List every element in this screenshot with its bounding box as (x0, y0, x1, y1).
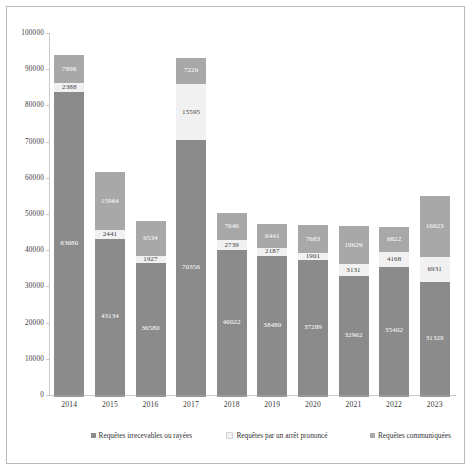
x-tick-label: 2014 (46, 400, 92, 409)
bar-value-label: 2441 (103, 231, 117, 238)
bar-value-label: 6441 (265, 233, 279, 240)
bar-segment[interactable]: 83680 (54, 92, 84, 395)
x-tick-label: 2019 (249, 400, 295, 409)
y-tick-label: 40000 (25, 246, 44, 254)
bar-segment[interactable]: 2187 (257, 248, 287, 256)
bar-segment[interactable]: 38480 (257, 256, 287, 395)
x-tick-label: 2017 (168, 400, 214, 409)
bar-value-label: 70356 (182, 264, 200, 271)
x-tick-label: 2015 (87, 400, 133, 409)
y-tick-label: 30000 (25, 282, 44, 290)
y-tick-label: 50000 (25, 210, 44, 218)
bar-segment[interactable]: 43134 (95, 239, 125, 395)
bar-segment[interactable]: 9534 (136, 221, 166, 256)
bar-segment[interactable]: 2739 (217, 240, 247, 250)
bar-segment[interactable]: 1901 (298, 253, 328, 260)
bar-segment[interactable]: 7683 (298, 225, 328, 253)
y-tick-label: 0 (40, 391, 44, 399)
chart-frame: 1000009000080000700006000050000400003000… (6, 6, 465, 464)
x-tick-mark (54, 395, 84, 397)
bar-stack[interactable]: 9534192736580 (136, 221, 166, 395)
x-tick-mark (339, 395, 369, 397)
bar-segment[interactable]: 6931 (420, 257, 450, 282)
bar-value-label: 15595 (182, 109, 200, 116)
x-tick-mark (257, 395, 287, 397)
bar-value-label: 4168 (387, 256, 401, 263)
bar-segment[interactable]: 7226 (176, 58, 206, 84)
legend-label: Requêtes communiquées (378, 431, 451, 440)
bar-segment[interactable]: 15595 (176, 84, 206, 140)
bar-segment[interactable]: 1927 (136, 256, 166, 263)
x-tick-mark (379, 395, 409, 397)
bar-segment[interactable]: 7646 (217, 213, 247, 241)
y-tick-mark (46, 395, 49, 396)
bar-stack[interactable]: 7896238883680 (54, 55, 84, 395)
bar-segment[interactable]: 35402 (379, 267, 409, 395)
bar-value-label: 15964 (101, 198, 119, 205)
y-tick-label: 90000 (25, 65, 44, 73)
bar-value-label: 43134 (101, 313, 119, 320)
bar-value-label: 1901 (306, 253, 320, 260)
x-tick-label: 2018 (209, 400, 255, 409)
bar-segment[interactable]: 3131 (339, 264, 369, 275)
bar-value-label: 38480 (263, 322, 281, 329)
bar-stack[interactable]: 6822416835402 (379, 227, 409, 395)
bar-value-label: 31329 (426, 335, 444, 342)
bar-segment[interactable]: 70356 (176, 140, 206, 395)
bar-segment[interactable]: 7896 (54, 55, 84, 84)
y-tick-label: 100000 (21, 29, 44, 37)
bar-value-label: 83680 (60, 240, 78, 247)
legend-swatch-icon (226, 432, 233, 439)
bar-segment[interactable]: 2388 (54, 83, 84, 92)
y-tick-label: 20000 (25, 319, 44, 327)
bar-segment[interactable]: 10629 (339, 226, 369, 264)
bar-value-label: 10629 (345, 242, 363, 249)
y-tick-label: 80000 (25, 101, 44, 109)
bar-stack[interactable]: 6441218738480 (257, 224, 287, 395)
bar-segment[interactable]: 6441 (257, 224, 287, 247)
x-tick-label: 2020 (290, 400, 336, 409)
plot-area: 1000009000080000700006000050000400003000… (49, 33, 455, 395)
bar-segment[interactable]: 32962 (339, 276, 369, 395)
bar-segment[interactable]: 37289 (298, 260, 328, 395)
bar-segment[interactable]: 31329 (420, 282, 450, 395)
bar-segment[interactable]: 40022 (217, 250, 247, 395)
chart-legend: Requêtes irrecevables ou rayéesRequêtes … (7, 431, 466, 440)
legend-item[interactable]: Requêtes communiquées (352, 431, 466, 440)
bar-segment[interactable]: 6822 (379, 227, 409, 252)
x-tick-mark (95, 395, 125, 397)
bar-value-label: 1927 (143, 256, 157, 263)
bar-stack[interactable]: 7683190137289 (298, 225, 328, 395)
legend-label: Requêtes irrecevables ou rayées (99, 431, 192, 440)
bar-value-label: 7646 (224, 223, 238, 230)
bar-segment[interactable]: 4168 (379, 252, 409, 267)
x-tick-label: 2023 (412, 400, 458, 409)
bar-series-group: 7896238883680159642441431349534192736580… (49, 33, 455, 395)
y-tick-label: 60000 (25, 174, 44, 182)
y-tick-label: 70000 (25, 138, 44, 146)
x-tick-label: 2021 (331, 400, 377, 409)
bar-segment[interactable]: 36580 (136, 263, 166, 395)
bar-value-label: 6822 (387, 236, 401, 243)
bar-segment[interactable]: 16623 (420, 196, 450, 256)
bar-value-label: 6931 (427, 266, 441, 273)
legend-item[interactable]: Requêtes irrecevables ou rayées (7, 431, 202, 440)
x-tick-label: 2022 (371, 400, 417, 409)
x-tick-mark (298, 395, 328, 397)
bar-stack[interactable]: 16623693131329 (420, 196, 450, 395)
bar-stack[interactable]: 15964244143134 (95, 172, 125, 395)
legend-item[interactable]: Requêtes par un arrêt prononcé (202, 431, 352, 440)
bar-value-label: 16623 (426, 223, 444, 230)
bar-value-label: 36580 (142, 325, 160, 332)
x-tick-label: 2016 (128, 400, 174, 409)
bar-stack[interactable]: 10629313132962 (339, 226, 369, 395)
bar-value-label: 7896 (62, 66, 76, 73)
bar-value-label: 3131 (346, 267, 360, 274)
bar-stack[interactable]: 72261559570356 (176, 58, 206, 395)
bar-stack[interactable]: 7646273940022 (217, 213, 247, 395)
legend-swatch-icon (370, 433, 375, 438)
bar-value-label: 9534 (143, 235, 157, 242)
bar-segment[interactable]: 2441 (95, 230, 125, 239)
bar-value-label: 2739 (224, 242, 238, 249)
bar-segment[interactable]: 15964 (95, 172, 125, 230)
